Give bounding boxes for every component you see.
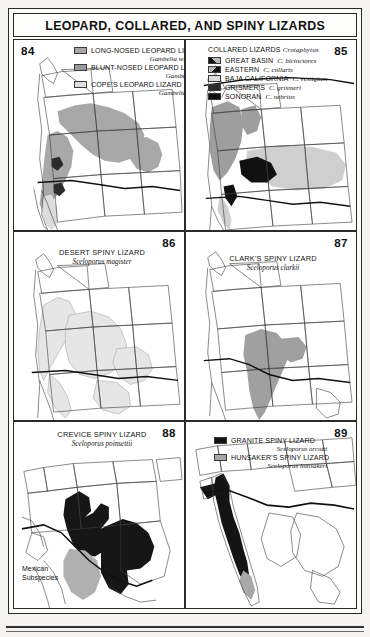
caption-scientific-name: Sceloporus magister (44, 258, 160, 266)
panel-number-86: 86 (162, 237, 176, 249)
map-panel-grid: 84 LONG-NOSED LEOPARD LIZARD Gambelia wi… (13, 39, 357, 609)
legend-label: BLUNT-NOSED LEOPARD LIZARD (91, 64, 185, 72)
legend-header-label: COLLARED LIZARDS (208, 46, 281, 54)
mexican-subspecies-note: Mexican Subspecies (22, 564, 58, 582)
swatch-copes-leopard-lizard (74, 81, 87, 89)
caption-scientific-name: Sceloporus poinsettii (44, 440, 160, 448)
note-line-2: Subspecies (22, 573, 58, 582)
legend-label: HUNSAKER'S SPINY LIZARD (231, 454, 329, 462)
legend-scientific: C. vestigium (292, 75, 327, 83)
legend-label: GRANITE SPINY LIZARD (231, 437, 315, 445)
panel-number-89: 89 (334, 427, 348, 439)
legend-label: SONORAN (225, 93, 262, 101)
legend-header-genus: Crotaphytus (283, 46, 319, 54)
legend-header-collared-lizards: COLLARED LIZARDS Crotaphytus (208, 46, 327, 54)
legend-label: GRISMER'S (225, 84, 265, 92)
swatch-granite-spiny-lizard (214, 437, 227, 445)
legend-84: LONG-NOSED LEOPARD LIZARD Gambelia wisli… (74, 46, 185, 97)
legend-row: GREAT BASIN C. bicinctores (208, 56, 327, 65)
legend-row: BAJA CALIFORNIA C. vestigium (208, 74, 327, 83)
footer-rule-thick (6, 626, 364, 628)
caption-common-name: CREVICE SPINY LIZARD (44, 430, 160, 439)
swatch-baja-california-collared-lizard (208, 75, 221, 83)
legend-scientific: C. nebrius (266, 93, 295, 101)
legend-scientific: Gambelia wislizenii (74, 55, 185, 62)
caption-scientific-name: Sceloporus clarkii (214, 264, 332, 272)
plate-sheet: LEOPARD, COLLARED, AND SPINY LIZARDS (8, 8, 362, 614)
legend-scientific: Sceloporus orcutti (214, 445, 329, 452)
legend-label: BAJA CALIFORNIA (225, 75, 288, 83)
panel-number-84: 84 (21, 45, 35, 57)
legend-scientific: Sceloporus hunsakeri (214, 462, 329, 469)
map-panel-87[interactable]: 87 CLARK'S SPINY LIZARD Sceloporus clark… (185, 231, 357, 421)
swatch-eastern-collared-lizard (208, 66, 221, 74)
caption-88: CREVICE SPINY LIZARD Sceloporus poinsett… (44, 430, 160, 448)
page-title: LEOPARD, COLLARED, AND SPINY LIZARDS (45, 18, 325, 33)
legend-scientific: C. grismeri (269, 84, 301, 92)
swatch-blunt-nosed-leopard-lizard (74, 64, 87, 72)
legend-label: LONG-NOSED LEOPARD LIZARD (91, 47, 185, 55)
legend-label: GREAT BASIN (225, 57, 273, 65)
legend-row: GRANITE SPINY LIZARD (214, 436, 329, 445)
map-panel-88[interactable]: 88 CREVICE SPINY LIZARD Sceloporus poins… (13, 421, 185, 609)
caption-common-name: CLARK'S SPINY LIZARD (214, 254, 332, 263)
map-panel-86[interactable]: 86 DESERT SPINY LIZARD Sceloporus magist… (13, 231, 185, 421)
legend-scientific: Gambelia copeii (74, 89, 185, 96)
note-line-1: Mexican (22, 564, 58, 573)
panel-number-87: 87 (334, 237, 348, 249)
caption-87: CLARK'S SPINY LIZARD Sceloporus clarkii (214, 254, 332, 272)
caption-86: DESERT SPINY LIZARD Sceloporus magister (44, 248, 160, 266)
swatch-grismers-collared-lizard (208, 84, 221, 92)
map-panel-84[interactable]: 84 LONG-NOSED LEOPARD LIZARD Gambelia wi… (13, 39, 185, 231)
caption-common-name: DESERT SPINY LIZARD (44, 248, 160, 257)
legend-scientific: C. bicinctores (277, 57, 316, 65)
legend-scientific: Gambelia silo (74, 72, 185, 79)
map-panel-89[interactable]: 89 GRANITE SPINY LIZARD Sceloporus orcut… (185, 421, 357, 609)
panel-number-85: 85 (334, 45, 348, 57)
footer-rule-thin (6, 631, 364, 632)
legend-label: COPE'S LEOPARD LIZARD (91, 81, 182, 89)
legend-row: SONORAN C. nebrius (208, 92, 327, 101)
swatch-great-basin-collared-lizard (208, 57, 221, 65)
legend-row: BLUNT-NOSED LEOPARD LIZARD (74, 63, 185, 72)
legend-scientific: C. collaris (263, 66, 293, 74)
legend-label: EASTERN (225, 66, 259, 74)
legend-row: LONG-NOSED LEOPARD LIZARD (74, 46, 185, 55)
swatch-sonoran-collared-lizard (208, 93, 221, 101)
map-plate-page: LEOPARD, COLLARED, AND SPINY LIZARDS (0, 0, 370, 637)
plate-title-bar: LEOPARD, COLLARED, AND SPINY LIZARDS (13, 13, 357, 37)
legend-row: GRISMER'S C. grismeri (208, 83, 327, 92)
legend-85: COLLARED LIZARDS Crotaphytus GREAT BASIN… (208, 46, 327, 101)
swatch-hunsakers-spiny-lizard (214, 454, 227, 462)
legend-row: HUNSAKER'S SPINY LIZARD (214, 453, 329, 462)
map-panel-85[interactable]: 85 COLLARED LIZARDS Crotaphytus GREAT BA… (185, 39, 357, 231)
legend-row: COPE'S LEOPARD LIZARD (74, 80, 185, 89)
swatch-long-nosed-leopard-lizard (74, 47, 87, 55)
legend-89: GRANITE SPINY LIZARD Sceloporus orcutti … (214, 436, 329, 470)
panel-number-88: 88 (162, 427, 176, 439)
legend-row: EASTERN C. collaris (208, 65, 327, 74)
